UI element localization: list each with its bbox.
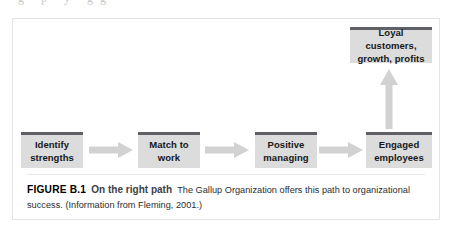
figure-frame: Identifystrengths Match towork Positivem… [12, 18, 440, 220]
page-bleed-text: g p y gg [18, 0, 218, 5]
figure-label: FIGURE B.1 [27, 184, 86, 195]
figure-source: (Information from Fleming, 2001.) [65, 200, 202, 210]
figure-caption: FIGURE B.1 On the right path The Gallup … [27, 182, 423, 212]
flow-arrow-right-icon-1 [89, 142, 133, 158]
caption-divider [27, 174, 425, 175]
flow-node-engaged-employees: Engagedemployees [366, 132, 432, 168]
flow-node-label: Match towork [149, 139, 188, 165]
flow-node-label: Loyal customers,growth, profits [353, 27, 429, 65]
flow-node-loyal-customers: Loyal customers,growth, profits [350, 27, 432, 63]
flow-node-identify-strengths: Identifystrengths [21, 132, 83, 168]
figure-title: On the right path [91, 184, 172, 195]
flow-arrow-right-icon-3 [319, 142, 363, 158]
flow-arrow-right-icon-2 [205, 142, 249, 158]
flow-node-positive-managing: Positivemanaging [255, 132, 317, 168]
flow-node-match-to-work: Match towork [138, 132, 200, 168]
flow-diagram: Identifystrengths Match towork Positivem… [13, 19, 439, 174]
flow-node-label: Engagedemployees [374, 139, 424, 165]
flow-node-label: Identifystrengths [30, 139, 74, 165]
flow-node-label: Positivemanaging [263, 139, 308, 165]
flow-arrow-up-icon [380, 69, 398, 129]
